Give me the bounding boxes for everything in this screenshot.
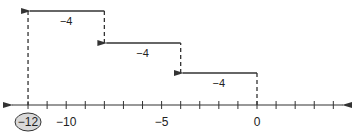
number-line-diagram: −4−4−4 −12−10−50 (0, 0, 355, 134)
jump-arrows: −4−4−4 (28, 11, 257, 105)
jump-label: −4 (213, 77, 226, 89)
tick-labels: −12−10−50 (15, 113, 261, 131)
jump-label: −4 (136, 47, 149, 59)
number-line (12, 101, 343, 109)
tick-label: −10 (56, 115, 77, 129)
jump-label: −4 (60, 15, 73, 27)
tick-label: −12 (18, 115, 39, 129)
tick-label: 0 (254, 115, 261, 129)
tick-label: −5 (155, 115, 169, 129)
